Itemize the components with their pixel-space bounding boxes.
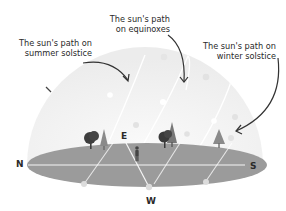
dome-tick-mark (46, 87, 51, 92)
sun-path-diagram: The sun's path on summer solstice The su… (0, 0, 286, 211)
sun-icon (203, 179, 209, 185)
sun-icon (184, 131, 190, 137)
summer-solstice-label: The sun's path on summer solstice (10, 38, 92, 58)
direction-east: E (121, 131, 127, 141)
sun-icon (146, 184, 152, 190)
winter-solstice-label: The sun's path on winter solstice (196, 41, 276, 61)
direction-south: S (250, 161, 256, 171)
sun-icon (211, 118, 217, 124)
equinox-label-line1: The sun's path (100, 14, 170, 24)
sun-icon (232, 114, 238, 120)
direction-west: W (146, 196, 156, 206)
direction-north: N (16, 159, 24, 169)
sun-icon (228, 135, 234, 141)
summer-label-line2: summer solstice (10, 48, 92, 58)
sun-icon (160, 99, 166, 105)
sun-icon (161, 54, 168, 61)
sun-icon (133, 122, 139, 128)
sun-icon (203, 74, 210, 81)
sun-icon (107, 92, 113, 98)
sun-icon (81, 181, 87, 187)
winter-label-line2: winter solstice (196, 51, 276, 61)
summer-label-line1: The sun's path on (10, 38, 92, 48)
equinox-label-line2: on equinoxes (100, 24, 170, 34)
equinox-label: The sun's path on equinoxes (100, 14, 170, 34)
winter-label-line1: The sun's path on (196, 41, 276, 51)
